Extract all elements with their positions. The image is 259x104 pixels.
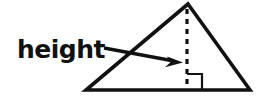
diagram-canvas: height xyxy=(0,0,259,104)
right-angle-marker xyxy=(187,74,202,89)
triangle-height-figure: height xyxy=(0,0,259,104)
triangle-outline xyxy=(86,4,250,90)
height-label: height xyxy=(17,35,106,64)
pointer-arrow-shaft xyxy=(104,48,174,61)
